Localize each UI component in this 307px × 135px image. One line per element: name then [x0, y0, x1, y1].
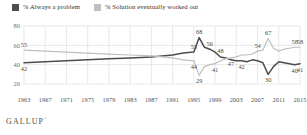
svg-text:68: 68: [196, 28, 202, 35]
x-tick-1971: 1971: [60, 96, 73, 103]
x-tick-1975: 1975: [81, 96, 94, 103]
svg-text:47: 47: [228, 60, 234, 67]
x-tick-2007: 2007: [251, 96, 264, 103]
svg-text:48: 48: [217, 47, 223, 54]
x-tick-1999: 1999: [209, 96, 222, 103]
gallup-brand-footer: GALLUP°: [6, 116, 47, 126]
x-tick-1979: 1979: [102, 96, 115, 103]
x-tick-1983: 1983: [124, 96, 137, 103]
svg-text:40: 40: [14, 61, 20, 68]
svg-text:30: 30: [265, 76, 271, 83]
x-tick-2011: 2011: [272, 96, 285, 103]
brand-mark: °: [44, 116, 47, 121]
grid-lines: [24, 26, 300, 84]
x-tick-1967: 1967: [39, 96, 52, 103]
legend-label-always-problem: % Always a problem: [23, 3, 80, 11]
svg-text:55: 55: [21, 41, 27, 48]
legend-label-solution-worked: % Solution eventually worked out: [105, 3, 198, 11]
legend-swatch-solution-worked: [94, 4, 101, 11]
svg-text:42: 42: [21, 65, 27, 72]
svg-text:60: 60: [14, 42, 20, 49]
svg-text:80: 80: [14, 22, 20, 29]
plot-area: 20406080 4253685648423040415544294147546…: [0, 18, 307, 98]
y-axis-tick-labels: 20406080: [14, 22, 20, 87]
legend-item-solution-worked: % Solution eventually worked out: [94, 3, 198, 11]
brand-text: GALLUP: [6, 117, 44, 126]
svg-text:44: 44: [191, 63, 198, 70]
x-tick-1991: 1991: [166, 96, 179, 103]
plot-svg: 20406080 4253685648423040415544294147546…: [0, 18, 307, 98]
x-tick-1987: 1987: [145, 96, 158, 103]
svg-text:53: 53: [191, 43, 197, 50]
svg-text:41: 41: [212, 66, 218, 73]
x-tick-2015: 2015: [294, 96, 307, 103]
gallup-line-chart: % Always a problem % Solution eventually…: [0, 0, 307, 135]
chart-legend: % Always a problem % Solution eventually…: [12, 3, 198, 11]
svg-text:41: 41: [297, 66, 303, 73]
svg-text:29: 29: [196, 77, 202, 84]
x-axis-tick-labels: 1963196719711975197919831987199119951999…: [0, 96, 307, 108]
x-tick-1995: 1995: [187, 96, 200, 103]
legend-item-always-problem: % Always a problem: [12, 3, 80, 11]
svg-text:58: 58: [297, 38, 303, 45]
x-tick-1963: 1963: [18, 96, 31, 103]
svg-text:67: 67: [265, 29, 271, 36]
x-tick-2003: 2003: [230, 96, 243, 103]
svg-text:20: 20: [14, 80, 20, 87]
legend-swatch-always-problem: [12, 4, 19, 11]
svg-text:54: 54: [254, 42, 261, 49]
svg-text:56: 56: [207, 40, 213, 47]
svg-text:42: 42: [238, 63, 244, 70]
